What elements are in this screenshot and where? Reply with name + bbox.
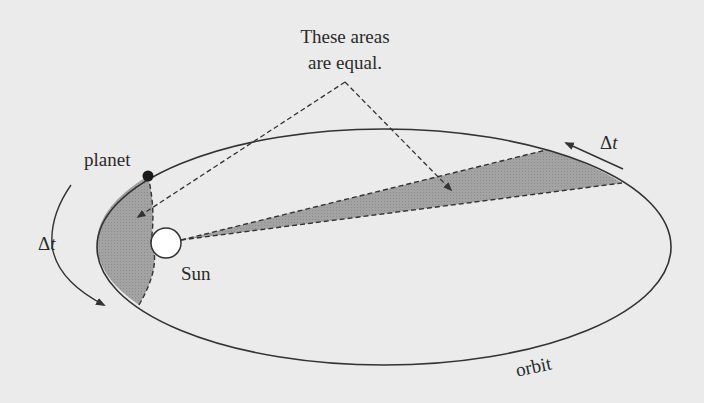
swept-area-aphelion	[181, 150, 622, 240]
pointer-arrow-right	[345, 82, 451, 190]
delta-t-right-label: Δt	[600, 133, 618, 152]
time-variable: t	[612, 132, 617, 153]
sun-icon	[151, 228, 181, 258]
delta-symbol: Δ	[600, 132, 612, 153]
pointer-arrow-left	[138, 82, 345, 217]
delta-symbol: Δ	[38, 233, 50, 254]
time-variable: t	[50, 233, 55, 254]
title-line-2: are equal.	[0, 53, 690, 72]
motion-arrow-left	[52, 185, 104, 305]
delta-t-left-label: Δt	[38, 234, 56, 253]
planet-icon	[143, 171, 154, 182]
kepler-diagram: These areas are equal. planet Sun Δt Δt …	[0, 0, 704, 403]
planet-label: planet	[84, 150, 130, 169]
sun-label: Sun	[181, 264, 211, 283]
title-line-1: These areas	[0, 27, 690, 46]
